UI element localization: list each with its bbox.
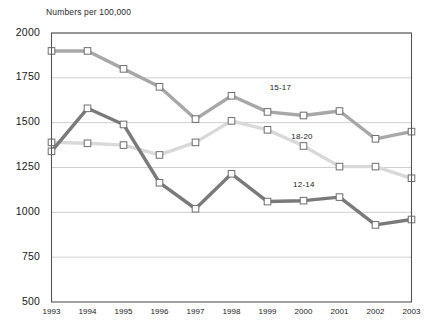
data-point-marker-12-14-2000	[300, 197, 307, 204]
data-point-marker-18-20-1999	[264, 127, 271, 134]
data-point-marker-18-20-1997	[192, 139, 199, 146]
series-markers-group	[48, 48, 415, 229]
data-point-marker-18-20-2002	[372, 163, 379, 170]
data-point-marker-15-17-1998	[228, 92, 235, 99]
data-point-marker-18-20-1994	[84, 140, 91, 147]
data-point-marker-18-20-2000	[300, 143, 307, 150]
data-point-marker-15-17-2002	[372, 136, 379, 143]
data-point-marker-12-14-2002	[372, 222, 379, 229]
data-point-marker-18-20-2001	[336, 163, 343, 170]
x-axis-tick-label: 1994	[68, 307, 108, 316]
y-axis-tick-label: 2000	[4, 26, 40, 38]
x-axis-tick-label: 2001	[320, 307, 360, 316]
y-axis-tick-label: 1500	[4, 115, 40, 127]
data-point-marker-12-14-2001	[336, 194, 343, 201]
series-label-18-20: 18-20	[291, 132, 312, 141]
data-point-marker-15-17-1995	[120, 66, 127, 73]
y-axis-tick-label: 1250	[4, 160, 40, 172]
line-chart-plot	[0, 0, 444, 321]
x-axis-tick-label: 2000	[284, 307, 324, 316]
data-point-marker-18-20-1995	[120, 142, 127, 149]
y-axis-tick-label: 1000	[4, 205, 40, 217]
series-lines-group	[52, 51, 412, 225]
data-point-marker-12-14-1995	[120, 121, 127, 128]
x-axis-tick-label: 2003	[392, 307, 432, 316]
series-label-12-14: 12-14	[293, 180, 314, 189]
x-axis-tick-label: 1999	[248, 307, 288, 316]
x-axis-tick-label: 2002	[356, 307, 396, 316]
x-axis-tick-label: 1995	[104, 307, 144, 316]
series-label-15-17: 15-17	[270, 83, 291, 92]
data-point-marker-15-17-1997	[192, 116, 199, 123]
chart-container: Numbers per 100,000 50075010001250150017…	[0, 0, 444, 321]
data-point-marker-12-14-1998	[228, 170, 235, 177]
x-axis-tick-label: 1997	[176, 307, 216, 316]
y-axis-tick-label: 500	[4, 295, 40, 307]
data-point-marker-15-17-1999	[264, 109, 271, 116]
data-point-marker-15-17-1994	[84, 48, 91, 55]
x-axis-tick-label: 1998	[212, 307, 252, 316]
data-point-marker-15-17-1996	[156, 84, 163, 91]
data-point-marker-15-17-2000	[300, 112, 307, 119]
data-point-marker-12-14-1996	[156, 179, 163, 186]
data-point-marker-18-20-1996	[156, 152, 163, 159]
data-point-marker-12-14-1994	[84, 105, 91, 112]
data-point-marker-18-20-1998	[228, 118, 235, 125]
y-axis-tick-label: 1750	[4, 70, 40, 82]
x-axis-tick-label: 1993	[32, 307, 72, 316]
y-axis-tick-label: 750	[4, 250, 40, 262]
data-point-marker-15-17-2001	[336, 108, 343, 115]
data-point-marker-12-14-1997	[192, 205, 199, 212]
x-axis-tick-label: 1996	[140, 307, 180, 316]
data-point-marker-12-14-1999	[264, 198, 271, 205]
series-line-18-20	[52, 121, 412, 178]
